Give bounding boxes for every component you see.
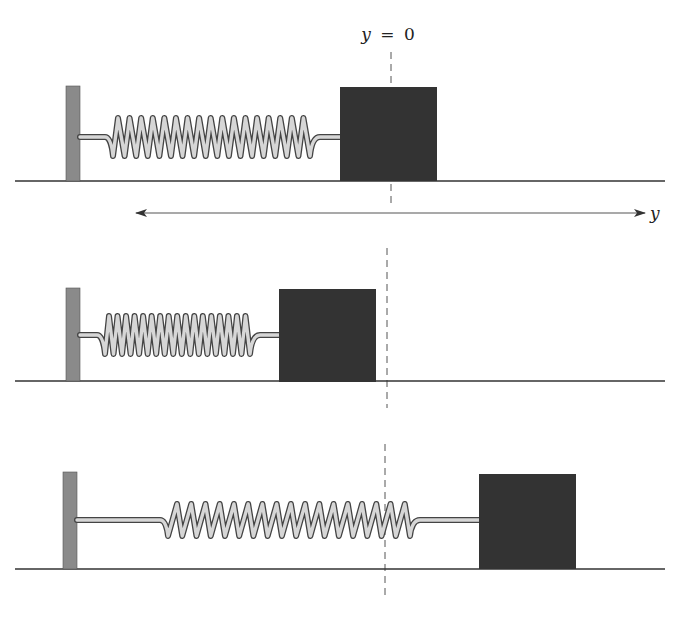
panel-compressed [15, 288, 665, 382]
wall [66, 86, 80, 181]
spring [80, 316, 279, 354]
equilibrium-label: y = 0 [360, 24, 415, 44]
panel-equilibrium [15, 86, 665, 181]
mass-spring-diagram: y = 0 y [0, 0, 682, 621]
mass-block [279, 289, 376, 382]
mass-block [479, 474, 576, 569]
spring [77, 504, 479, 536]
mass-block [340, 87, 437, 181]
y-axis-label: y [649, 203, 660, 223]
panel-stretched [15, 472, 665, 569]
spring [80, 118, 340, 156]
